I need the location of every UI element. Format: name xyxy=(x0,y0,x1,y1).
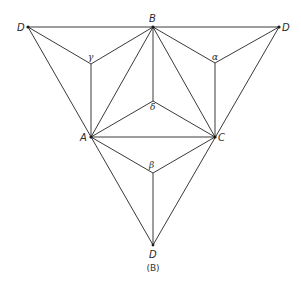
label-beta: β xyxy=(148,160,154,170)
edge-b-gamma xyxy=(91,27,153,64)
label-delta: δ xyxy=(150,102,155,112)
figure-caption: (B) xyxy=(146,263,159,273)
label-c: C xyxy=(218,132,225,143)
label-d-bottom: D xyxy=(149,249,157,260)
edge-a-delta xyxy=(91,101,153,137)
label-a: A xyxy=(79,132,87,143)
edge-b-a xyxy=(91,27,153,137)
edge-d2-alpha xyxy=(215,27,279,63)
edge-c-delta xyxy=(153,101,215,137)
label-d-right: D xyxy=(282,22,290,33)
label-alpha: α xyxy=(212,52,218,62)
vertex-d-left xyxy=(26,25,29,28)
label-d-left: D xyxy=(17,22,25,33)
edge-a-beta xyxy=(91,137,153,173)
edges-group xyxy=(28,27,279,245)
edge-b-c xyxy=(153,27,215,137)
vertex-d-right xyxy=(277,25,280,28)
edge-b-alpha xyxy=(153,27,215,63)
vertex-a xyxy=(89,135,92,138)
vertex-b xyxy=(151,25,154,28)
label-b: B xyxy=(149,13,156,24)
label-gamma: γ xyxy=(88,52,94,62)
triangle-construction-diagram: D B D γ α δ A C β D (B) xyxy=(0,0,301,286)
vertex-d-bottom xyxy=(152,244,155,247)
vertex-c xyxy=(213,135,216,138)
edge-d1-gamma xyxy=(28,27,91,64)
edge-c-beta xyxy=(153,137,215,173)
